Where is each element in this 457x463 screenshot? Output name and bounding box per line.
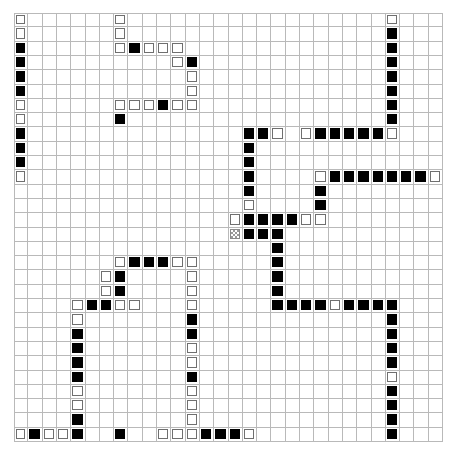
grid-cell-2-16[interactable]: [243, 42, 257, 56]
grid-cell-16-7[interactable]: [114, 242, 128, 256]
grid-cell-2-27[interactable]: [400, 42, 414, 56]
grid-cell-3-5[interactable]: [86, 56, 100, 70]
grid-cell-11-21[interactable]: [314, 170, 328, 184]
grid-cell-9-4[interactable]: [71, 142, 85, 156]
grid-cell-9-6[interactable]: [100, 142, 114, 156]
grid-cell-21-6[interactable]: [100, 313, 114, 327]
grid-cell-18-5[interactable]: [86, 270, 100, 284]
grid-cell-26-8[interactable]: [128, 385, 142, 399]
grid-cell-26-9[interactable]: [143, 385, 157, 399]
grid-cell-8-14[interactable]: [214, 127, 228, 141]
grid-cell-28-10[interactable]: [157, 413, 171, 427]
grid-cell-11-20[interactable]: [300, 170, 314, 184]
grid-cell-9-26[interactable]: [386, 142, 400, 156]
grid-cell-22-26[interactable]: [386, 328, 400, 342]
grid-cell-19-2[interactable]: [43, 285, 57, 299]
grid-cell-3-3[interactable]: [57, 56, 71, 70]
grid-cell-21-14[interactable]: [214, 313, 228, 327]
grid-cell-21-7[interactable]: [114, 313, 128, 327]
grid-cell-0-14[interactable]: [214, 13, 228, 27]
grid-cell-16-13[interactable]: [200, 242, 214, 256]
grid-cell-24-24[interactable]: [357, 356, 371, 370]
grid-cell-2-15[interactable]: [229, 42, 243, 56]
grid-cell-23-5[interactable]: [86, 342, 100, 356]
grid-cell-17-11[interactable]: [171, 256, 185, 270]
grid-cell-14-7[interactable]: [114, 213, 128, 227]
grid-cell-13-26[interactable]: [386, 199, 400, 213]
grid-cell-10-1[interactable]: [28, 156, 42, 170]
grid-cell-5-28[interactable]: [414, 85, 428, 99]
grid-cell-7-10[interactable]: [157, 113, 171, 127]
grid-cell-19-1[interactable]: [28, 285, 42, 299]
grid-cell-8-6[interactable]: [100, 127, 114, 141]
grid-cell-29-3[interactable]: [57, 428, 71, 442]
grid-cell-3-0[interactable]: [14, 56, 28, 70]
grid-cell-23-14[interactable]: [214, 342, 228, 356]
grid-cell-21-18[interactable]: [271, 313, 285, 327]
grid-cell-11-26[interactable]: [386, 170, 400, 184]
grid-cell-10-28[interactable]: [414, 156, 428, 170]
grid-cell-29-1[interactable]: [28, 428, 42, 442]
grid-cell-28-23[interactable]: [343, 413, 357, 427]
grid-cell-28-14[interactable]: [214, 413, 228, 427]
grid-cell-29-23[interactable]: [343, 428, 357, 442]
grid-cell-6-8[interactable]: [128, 99, 142, 113]
grid-cell-19-17[interactable]: [257, 285, 271, 299]
grid-cell-9-23[interactable]: [343, 142, 357, 156]
grid-cell-2-20[interactable]: [300, 42, 314, 56]
grid-cell-25-12[interactable]: [186, 371, 200, 385]
grid-cell-18-21[interactable]: [314, 270, 328, 284]
grid-cell-17-12[interactable]: [186, 256, 200, 270]
grid-cell-12-15[interactable]: [229, 185, 243, 199]
grid-cell-26-1[interactable]: [28, 385, 42, 399]
grid-cell-7-14[interactable]: [214, 113, 228, 127]
grid-cell-18-25[interactable]: [372, 270, 386, 284]
grid-cell-22-8[interactable]: [128, 328, 142, 342]
grid-cell-26-18[interactable]: [271, 385, 285, 399]
grid-cell-20-0[interactable]: [14, 299, 28, 313]
grid-cell-29-24[interactable]: [357, 428, 371, 442]
grid-cell-1-11[interactable]: [171, 27, 185, 41]
grid-cell-27-15[interactable]: [229, 399, 243, 413]
grid-cell-13-29[interactable]: [429, 199, 443, 213]
grid-cell-29-17[interactable]: [257, 428, 271, 442]
grid-cell-21-19[interactable]: [286, 313, 300, 327]
grid-cell-26-6[interactable]: [100, 385, 114, 399]
grid-cell-13-7[interactable]: [114, 199, 128, 213]
grid-cell-5-23[interactable]: [343, 85, 357, 99]
grid-cell-5-22[interactable]: [329, 85, 343, 99]
grid-cell-1-23[interactable]: [343, 27, 357, 41]
grid-cell-27-22[interactable]: [329, 399, 343, 413]
grid-cell-10-29[interactable]: [429, 156, 443, 170]
grid-cell-29-8[interactable]: [128, 428, 142, 442]
grid-cell-19-0[interactable]: [14, 285, 28, 299]
grid-cell-12-18[interactable]: [271, 185, 285, 199]
grid-cell-24-22[interactable]: [329, 356, 343, 370]
grid-cell-23-20[interactable]: [300, 342, 314, 356]
grid-cell-18-2[interactable]: [43, 270, 57, 284]
grid-cell-15-17[interactable]: [257, 228, 271, 242]
grid-cell-21-21[interactable]: [314, 313, 328, 327]
grid-cell-24-19[interactable]: [286, 356, 300, 370]
grid-cell-6-22[interactable]: [329, 99, 343, 113]
grid-cell-14-2[interactable]: [43, 213, 57, 227]
grid-cell-29-16[interactable]: [243, 428, 257, 442]
grid-cell-17-2[interactable]: [43, 256, 57, 270]
grid-cell-24-2[interactable]: [43, 356, 57, 370]
grid-cell-9-19[interactable]: [286, 142, 300, 156]
grid-cell-0-28[interactable]: [414, 13, 428, 27]
grid-cell-3-22[interactable]: [329, 56, 343, 70]
grid-cell-15-29[interactable]: [429, 228, 443, 242]
grid-cell-23-1[interactable]: [28, 342, 42, 356]
grid-cell-2-13[interactable]: [200, 42, 214, 56]
grid-cell-23-16[interactable]: [243, 342, 257, 356]
grid-cell-9-25[interactable]: [372, 142, 386, 156]
grid-cell-28-17[interactable]: [257, 413, 271, 427]
grid-cell-25-26[interactable]: [386, 371, 400, 385]
grid-cell-21-24[interactable]: [357, 313, 371, 327]
grid-cell-22-4[interactable]: [71, 328, 85, 342]
grid-cell-29-13[interactable]: [200, 428, 214, 442]
grid-cell-5-29[interactable]: [429, 85, 443, 99]
grid-cell-2-5[interactable]: [86, 42, 100, 56]
grid-cell-5-10[interactable]: [157, 85, 171, 99]
